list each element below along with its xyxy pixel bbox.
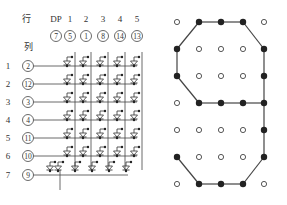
lit-dot: [218, 181, 224, 187]
lit-dot: [174, 46, 180, 52]
lit-dot: [240, 100, 246, 106]
lit-dot: [261, 154, 267, 160]
unlit-dot: [174, 100, 179, 105]
lit-dot: [196, 100, 202, 106]
unlit-dot: [174, 19, 179, 24]
lit-dot: [261, 73, 267, 79]
segment-line: [177, 22, 199, 49]
unlit-dot: [218, 46, 223, 51]
unlit-dot: [174, 127, 179, 132]
lit-dot: [218, 19, 224, 25]
lit-dot: [196, 181, 202, 187]
lit-dot: [261, 46, 267, 52]
lit-dot: [218, 100, 224, 106]
lit-dot: [196, 19, 202, 25]
unlit-dot: [196, 46, 201, 51]
unlit-dot: [196, 154, 201, 159]
lit-dot: [240, 181, 246, 187]
unlit-dot: [218, 154, 223, 159]
segment-line: [243, 22, 264, 49]
unlit-dot: [261, 181, 266, 186]
lit-dot: [240, 19, 246, 25]
lit-dot: [174, 154, 180, 160]
unlit-dot: [218, 73, 223, 78]
unlit-dot: [218, 127, 223, 132]
dot-matrix-display: [0, 0, 287, 205]
lit-dot: [261, 100, 267, 106]
unlit-dot: [240, 127, 245, 132]
segment-line: [243, 157, 264, 184]
unlit-dot: [196, 73, 201, 78]
segment-line: [177, 157, 199, 184]
lit-dot: [174, 73, 180, 79]
unlit-dot: [240, 154, 245, 159]
lit-dot: [261, 127, 267, 133]
unlit-dot: [240, 73, 245, 78]
unlit-dot: [261, 19, 266, 24]
segment-line: [177, 76, 199, 103]
unlit-dot: [196, 127, 201, 132]
unlit-dot: [174, 181, 179, 186]
unlit-dot: [240, 46, 245, 51]
